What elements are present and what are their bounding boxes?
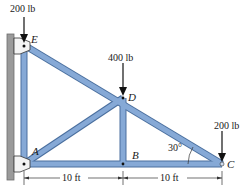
- pin-support-E: [14, 38, 30, 54]
- pin-C: [220, 162, 224, 166]
- load-label-C: 200 lb: [214, 121, 239, 131]
- truss-diagram: [0, 0, 249, 192]
- dimension-label-BC: 10 ft: [160, 173, 179, 183]
- joint-label-E: E: [31, 34, 38, 45]
- joint-label-C: C: [227, 159, 234, 170]
- load-label-D: 400 lb: [108, 53, 133, 63]
- joint-label-A: A: [32, 146, 39, 157]
- wall: [7, 34, 14, 180]
- dimension-label-AB: 10 ft: [62, 173, 81, 183]
- pin-B: [122, 163, 125, 166]
- load-label-E: 200 lb: [10, 4, 35, 14]
- angle-label: 30°: [168, 143, 182, 153]
- pin-D: [122, 97, 125, 100]
- joint-label-D: D: [128, 92, 136, 103]
- joint-label-B: B: [132, 150, 139, 161]
